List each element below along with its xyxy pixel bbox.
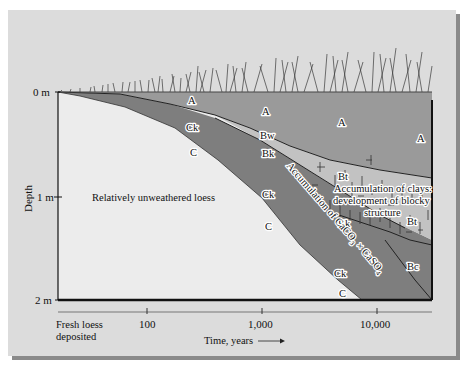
depth-2m-label: 2 m <box>35 294 52 306</box>
horizon-label-bt: Bt <box>407 216 417 227</box>
depth-1m-label: 1 m <box>37 191 54 203</box>
horizon-label-bc: Bc <box>407 261 419 272</box>
time-axis-title: Time, years <box>204 335 253 346</box>
clays-annotation-line3: structure <box>364 207 401 218</box>
horizon-label-ck: Ck <box>186 122 199 133</box>
clays-annotation-line1: Accumulation of clays: <box>334 183 432 194</box>
time-tick-1000-label: 1,000 <box>248 318 273 330</box>
time-tick-10000-label: 10,000 <box>360 318 391 330</box>
horizon-label-c: C <box>265 221 272 232</box>
depth-0m-label: 0 m <box>33 86 50 98</box>
horizon-label-ck: Ck <box>334 268 347 279</box>
time-arrow-icon <box>258 339 285 344</box>
fresh-loess-label-line1: Fresh loess <box>56 319 103 330</box>
horizon-label-bt: Bt <box>338 171 348 182</box>
clays-annotation-line2: development of blocky <box>333 195 431 206</box>
fresh-loess-label-line2: deposited <box>56 331 97 342</box>
soil-profile-diagram: 0 m 1 m 2 m Depth Fresh loess deposited … <box>0 0 465 373</box>
horizon-label-c: C <box>339 288 346 299</box>
time-tick-100-label: 100 <box>139 318 156 330</box>
horizon-label-a: A <box>338 117 346 128</box>
horizon-label-c: C <box>190 147 197 158</box>
loess-annotation: Relatively unweathered loess <box>92 192 215 203</box>
depth-axis-title: Depth <box>22 185 34 212</box>
grass-vegetation <box>58 48 432 92</box>
horizon-label-a: A <box>417 133 425 144</box>
horizon-label-a: A <box>188 95 196 106</box>
horizon-label-ck: Ck <box>262 189 275 200</box>
horizon-label-a: A <box>262 106 270 117</box>
horizon-label-bw: Bw <box>260 130 275 141</box>
horizon-label-bk: Bk <box>262 148 275 159</box>
